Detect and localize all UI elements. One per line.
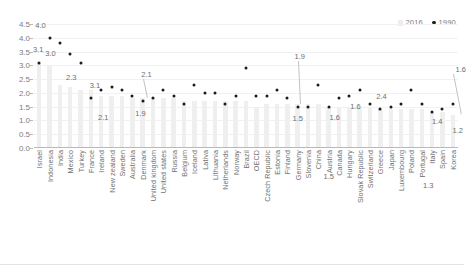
y-axis-tick [30,134,33,135]
x-axis-labels: IsraelIndonesiaIndiaMexicoTurkeyFranceIr… [34,150,458,260]
x-axis-category-label: Germany [293,150,302,180]
y-axis-tick-label: 4.5 [19,20,30,29]
x-axis-category-label: Finland [283,150,292,174]
x-axis-category-label: Turkey [76,150,85,172]
footer-divider [0,264,464,265]
y-axis-tick [30,38,33,39]
x-axis-category-label: Hungary [345,150,354,178]
y-axis-tick [30,107,33,108]
x-axis-category-label: United kingdom [148,150,157,201]
y-axis-tick-label: 3.5 [19,47,30,56]
annotation-leader-line [453,74,462,114]
x-axis-category-label: Indonesia [45,150,54,182]
x-axis-category-label: Greece [376,150,385,174]
x-axis-category-label: Iceland [190,150,199,174]
x-axis-category-label: Austria [324,150,333,173]
x-axis-category-label: India [55,150,64,166]
x-axis-category-label: Czech Republic [262,150,271,202]
value-annotation: 4.0 [35,21,45,30]
x-axis-category-label: Lithuania [210,150,219,180]
x-axis-category-label: Estonia [273,150,282,175]
x-axis-category-label: Switzerland [366,150,375,188]
x-axis-category-label: Canada [335,150,344,176]
value-annotation: 1.6 [330,113,340,122]
value-annotation: 2.3 [66,73,76,82]
y-axis-tick-label: 2.0 [19,88,30,97]
annotations-layer: 4.03.13.02.33.12.12.11.91.91.51.61.61.52… [34,24,458,148]
value-annotation: 1.4 [432,117,442,126]
value-annotation: 2.4 [376,92,386,101]
x-axis-category-label: OECD [252,150,261,171]
x-axis-category-label: Slovenia [304,150,313,178]
value-annotation: 3.0 [45,49,55,58]
x-axis-category-label: Mexico [66,150,75,173]
x-axis-category-label: Slovak Republic [355,150,364,203]
x-axis-category-label: Portugal [417,150,426,178]
y-axis-tick-label: 2.5 [19,75,30,84]
x-axis-category-label: Brazil [242,150,251,169]
y-axis-tick [30,148,33,149]
x-axis-category-label: Belgium [179,150,188,177]
y-axis-tick [30,65,33,66]
x-axis-category-label: Sweden [117,150,126,177]
value-annotation: 3.1 [90,81,100,90]
y-axis-tick [30,24,33,25]
x-axis-category-label: Norway [231,150,240,175]
x-axis-category-label: Israel [35,150,44,168]
x-axis-category-label: Korea [448,150,457,170]
value-annotation: 3.1 [33,45,43,54]
y-axis-tick [30,120,33,121]
x-axis-category-label: China [314,150,323,169]
value-annotation: 2.1 [98,113,108,122]
y-axis-tick-label: 0.5 [19,130,30,139]
x-axis-category-label: Denmark [138,150,147,180]
value-annotation: 1.6 [456,65,466,74]
y-axis-tick-label: 1.0 [19,116,30,125]
x-axis-category-label: Ireland [97,150,106,173]
x-axis-category-label: United states [159,150,168,193]
y-axis-tick-label: 0.0 [19,144,30,153]
x-axis-category-label: Netherlands [221,150,230,190]
x-axis-category-label: Luxembourg [397,150,406,191]
x-axis-category-label: Lativa [200,150,209,170]
value-annotation: 1.9 [135,109,145,118]
y-axis-tick [30,93,33,94]
value-annotation: 1.5 [292,114,302,123]
annotation-leader-line [143,79,148,98]
y-axis-tick [30,79,33,80]
x-axis-category-label: Spain [438,150,447,169]
x-axis-category-label: Australia [128,150,137,179]
x-axis-category-label: Russia [169,150,178,173]
y-axis-tick-label: 3.0 [19,61,30,70]
y-axis-tick-label: 4.0 [19,33,30,42]
y-axis-tick-label: 1.5 [19,102,30,111]
x-axis-category-label: New zealand [107,150,116,193]
x-axis-line [34,147,458,148]
value-annotation: 1.2 [453,126,463,135]
x-axis-category-label: Poland [407,150,416,173]
x-axis-category-label: France [86,150,95,173]
value-annotation: 1.6 [350,102,360,111]
x-axis-category-label: Japan [386,150,395,170]
plot-area: 0.00.51.01.52.02.53.03.54.04.5 4.03.13.0… [34,24,458,148]
value-annotation: 1.9 [294,52,304,61]
x-axis-category-label: Italy [428,150,437,164]
value-annotation: 2.1 [141,70,151,79]
annotation-leader-line [298,61,301,104]
